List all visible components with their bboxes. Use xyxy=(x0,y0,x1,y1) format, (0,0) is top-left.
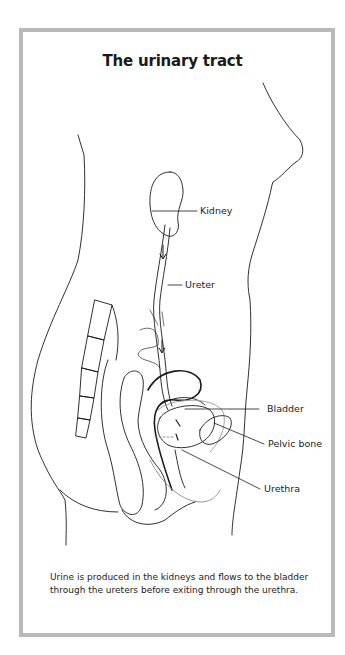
rectum xyxy=(101,360,143,514)
bladder xyxy=(158,406,215,448)
uterus xyxy=(148,371,201,490)
urinary-tract-illustration xyxy=(0,0,345,655)
urethra-leader xyxy=(182,450,260,489)
figure-caption: Urine is produced in the kidneys and flo… xyxy=(50,571,320,597)
body-front-outline xyxy=(232,83,303,535)
spine xyxy=(76,300,118,438)
label-kidney: Kidney xyxy=(200,205,232,216)
leader-lines xyxy=(152,211,264,489)
label-bladder: Bladder xyxy=(267,403,304,414)
label-pelvic-bone: Pelvic bone xyxy=(268,438,322,449)
urethra xyxy=(175,450,185,488)
intestines xyxy=(138,328,160,368)
body-back-outline xyxy=(31,135,85,545)
ureter xyxy=(154,225,168,410)
label-ureter: Ureter xyxy=(185,279,215,290)
label-urethra: Urethra xyxy=(264,483,300,494)
kidney xyxy=(150,172,183,236)
